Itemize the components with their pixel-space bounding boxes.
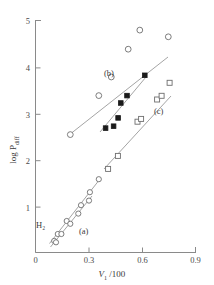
- y-tick-label-1: 1: [26, 203, 30, 213]
- x-tick-label-0: 0: [33, 255, 37, 265]
- axes-group: [36, 20, 197, 253]
- data-point: [119, 101, 124, 106]
- series-markers-b-circles: [67, 27, 171, 137]
- data-point: [59, 231, 64, 236]
- data-point: [87, 190, 92, 195]
- x-axis-title: V1 /100: [99, 269, 126, 281]
- y-axis-title-main: log P: [8, 145, 18, 164]
- data-point: [103, 126, 108, 131]
- data-point: [53, 240, 58, 245]
- x-tick-label-09: 0.9: [190, 255, 201, 265]
- data-point: [139, 116, 144, 121]
- annotation-b: (b): [104, 68, 114, 78]
- x-tick-label-03: 0.3: [84, 255, 95, 265]
- y-tick-label-3: 3: [26, 110, 30, 120]
- y-axis-title-group: log Pdiff: [8, 136, 20, 163]
- annotation-a: (a): [79, 226, 89, 236]
- data-point: [116, 116, 121, 121]
- annotation-h2: H₂: [36, 220, 45, 230]
- data-point: [167, 80, 172, 85]
- data-point: [96, 93, 102, 99]
- x-axis-title-group: V1 /100: [99, 269, 126, 281]
- data-point: [125, 46, 131, 52]
- data-point: [165, 34, 171, 40]
- y-tick-labels: 5 4 3 2 1: [26, 16, 31, 213]
- y-tick-label-4: 4: [26, 63, 31, 73]
- data-point: [68, 221, 73, 226]
- x-axis-title-tail: /100: [107, 269, 126, 279]
- x-ticks-group: [36, 248, 196, 253]
- data-point: [137, 27, 143, 33]
- annotation-c: (c): [154, 106, 164, 116]
- data-point: [125, 93, 130, 98]
- y-tick-label-2: 2: [26, 156, 30, 166]
- series-markers-a: [53, 198, 91, 245]
- series-line-b-circles: [69, 57, 168, 135]
- data-point: [86, 198, 91, 203]
- data-point: [115, 153, 120, 158]
- y-axis-title-subscript: diff: [14, 136, 20, 145]
- data-point: [78, 203, 83, 208]
- plot-canvas: 5 4 3 2 1 0 0.3 0.6 0.9 log Pdiff V1 /10…: [0, 0, 214, 285]
- data-point: [67, 132, 73, 138]
- data-point: [106, 166, 111, 171]
- y-ticks-group: [36, 21, 41, 208]
- x-tick-label-06: 0.6: [137, 255, 148, 265]
- data-point: [143, 73, 148, 78]
- data-point: [159, 93, 164, 98]
- x-tick-labels: 0 0.3 0.6 0.9: [33, 255, 200, 265]
- annotation-h2-text: H₂: [36, 220, 45, 230]
- data-point: [76, 211, 81, 216]
- y-axis-title: log Pdiff: [8, 136, 20, 163]
- scatter-plot-figure: 5 4 3 2 1 0 0.3 0.6 0.9 log Pdiff V1 /10…: [0, 0, 214, 285]
- data-point: [96, 177, 101, 182]
- y-tick-label-5: 5: [26, 16, 30, 26]
- data-point: [111, 124, 116, 129]
